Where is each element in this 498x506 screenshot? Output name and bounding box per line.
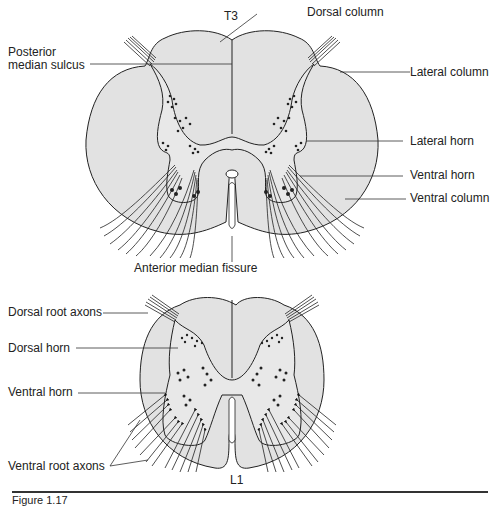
central-canal <box>226 170 238 178</box>
caption-rule <box>12 491 488 493</box>
label-lateral-horn: Lateral horn <box>410 135 474 148</box>
label-ventral-horn-bottom: Ventral horn <box>8 386 73 399</box>
label-l1: L1 <box>230 474 243 487</box>
label-ventral-root-axons: Ventral root axons <box>8 460 105 473</box>
label-dorsal-column: Dorsal column <box>307 6 384 19</box>
label-anterior-median-fissure: Anterior median fissure <box>134 262 257 275</box>
l1-cross-section <box>76 295 336 472</box>
t3-cross-section <box>86 14 410 262</box>
label-dorsal-root-axons: Dorsal root axons <box>8 306 102 319</box>
label-ventral-horn-top: Ventral horn <box>410 169 475 182</box>
label-posterior-median-sulcus: Posterior median sulcus <box>8 46 88 72</box>
label-lateral-column: Lateral column <box>410 66 489 79</box>
figure-caption: Figure 1.17 <box>12 494 68 506</box>
label-ventral-column: Ventral column <box>410 192 489 205</box>
label-dorsal-horn: Dorsal horn <box>8 342 70 355</box>
label-t3: T3 <box>224 10 238 23</box>
